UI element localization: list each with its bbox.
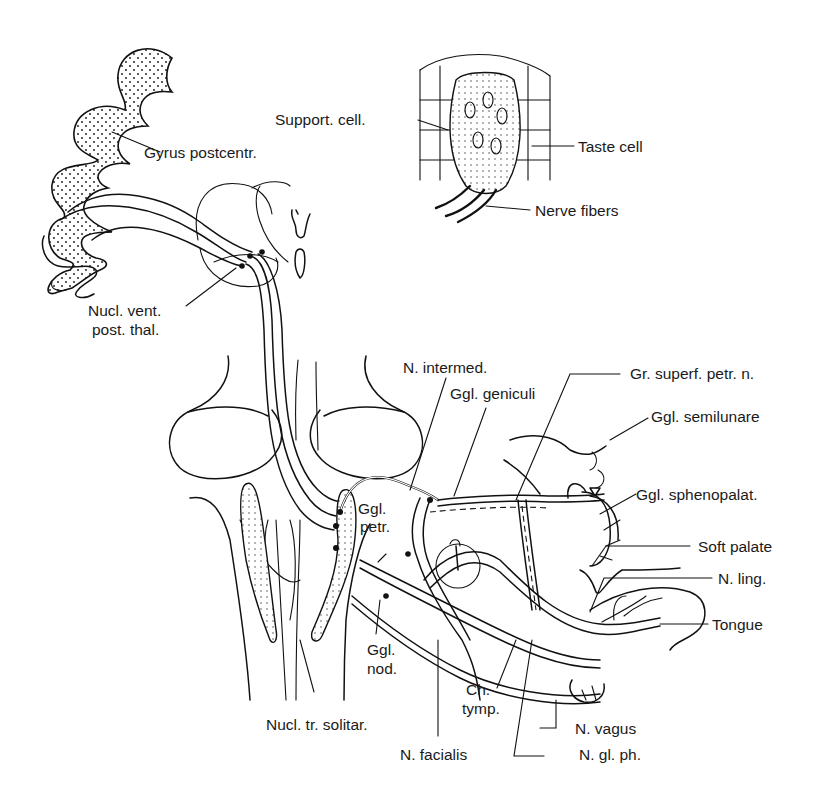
label-n-gl-ph: N. gl. ph. — [579, 745, 641, 764]
label-ch-tymp: Ch. tymp. — [462, 680, 500, 718]
label-ggl-nod-line1: Ggl. — [367, 640, 397, 659]
taste-pathway-diagram: Gyrus postcentr. Nucl. vent. post. thal.… — [0, 0, 835, 803]
semilunar-ganglion — [504, 436, 606, 494]
label-nucl-vent-line2: post. thal. — [92, 320, 161, 339]
label-nucl-vent-post-thal: Nucl. vent. post. thal. — [88, 301, 161, 339]
soft-palate-shape — [580, 568, 680, 593]
taste-bud-illustration — [420, 55, 550, 222]
label-ch-tymp-line1: Ch. — [466, 680, 500, 699]
label-taste-cell: Taste cell — [578, 137, 643, 156]
label-tongue: Tongue — [712, 615, 763, 634]
label-ggl-petr-line1: Ggl. — [358, 500, 390, 518]
label-ch-tymp-line2: tymp. — [462, 699, 500, 718]
label-gr-superf-petr-n: Gr. superf. petr. n. — [630, 364, 754, 383]
label-leader-lines — [112, 120, 712, 756]
label-n-intermed: N. intermed. — [403, 358, 487, 377]
label-n-vagus: N. vagus — [575, 719, 636, 738]
label-gyrus-postcentr: Gyrus postcentr. — [144, 143, 257, 162]
label-soft-palate: Soft palate — [698, 537, 772, 556]
label-ggl-semilunare: Ggl. semilunare — [651, 407, 760, 426]
label-nerve-fibers: Nerve fibers — [535, 201, 619, 220]
label-ggl-nod-line2: nod. — [367, 659, 397, 678]
label-nucl-vent-line1: Nucl. vent. — [88, 301, 161, 320]
label-nucl-tr-solitar: Nucl. tr. solitar. — [266, 715, 368, 734]
label-ggl-geniculi: Ggl. geniculi — [450, 384, 535, 403]
label-ggl-sphenopalat: Ggl. sphenopalat. — [636, 485, 758, 504]
label-ggl-petr-line2: petr. — [360, 518, 390, 536]
label-n-ling: N. ling. — [718, 569, 766, 588]
diagram-artwork — [0, 0, 835, 803]
label-ggl-nod: Ggl. nod. — [367, 640, 397, 678]
label-support-cell: Support. cell. — [275, 110, 365, 129]
label-n-facialis: N. facialis — [400, 745, 467, 764]
tongue-shape — [570, 588, 705, 703]
label-ggl-petr: Ggl. petr. — [358, 500, 390, 536]
cortex-gyrus-shape — [43, 49, 172, 298]
tympanic-cavity — [436, 540, 480, 588]
